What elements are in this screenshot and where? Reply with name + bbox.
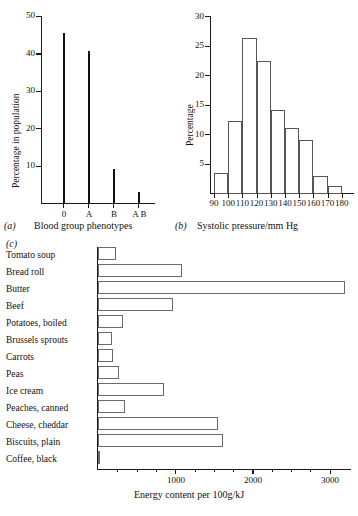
panel-c-x-minor-tick-2250	[272, 469, 273, 472]
panel-b-x-ticklabel-150: 150	[292, 199, 306, 208]
panel-c-x-tick-3000	[330, 469, 331, 474]
panel-c-x-ticklabel-1000: 1000	[163, 476, 189, 485]
chart-panel-c: (c) Tomato soup Bread roll Butter Beef P…	[0, 235, 358, 516]
panel-b-x-ticklabel-130: 130	[264, 199, 278, 208]
panel-c-bar-7	[98, 366, 119, 379]
panel-b-bar-150-160	[299, 140, 313, 194]
panel-b-bar-110-120	[242, 38, 256, 194]
panel-c-bar-11	[98, 434, 223, 447]
panel-b-x-tick-120	[257, 193, 258, 198]
panel-c-bar-1	[98, 264, 182, 277]
panel-c-x-axis	[97, 469, 351, 470]
panel-c-category-label-7: Peas	[6, 369, 23, 379]
panel-a-y-tick-10	[36, 166, 41, 167]
panel-b-y-ticklabel-20: 20	[191, 71, 204, 80]
panel-b-bar-130-140	[271, 110, 285, 194]
chart-panel-b: Percentage 5 10 15 20 25 30 90 100 110 1…	[175, 0, 358, 235]
panel-b-x-ticklabel-100: 100	[221, 199, 235, 208]
panel-c-x-minor-tick-1500	[214, 469, 215, 472]
panel-a-y-tick-40	[36, 53, 41, 54]
panel-b-bar-140-150	[285, 128, 299, 194]
panel-b-x-tick-140	[285, 193, 286, 198]
panel-b-x-tick-180	[342, 193, 343, 198]
panel-b-bar-120-130	[257, 61, 271, 194]
panel-b-x-ticklabel-110: 110	[235, 199, 249, 208]
panel-c-bar-4	[98, 315, 123, 328]
panel-b-y-ticklabel-25: 25	[191, 41, 204, 50]
panel-a-y-tick-20	[36, 128, 41, 129]
panel-a-x-axis-title: Blood group phenotypes	[34, 220, 132, 231]
panel-b-x-ticklabel-120: 120	[250, 199, 264, 208]
panel-a-y-ticklabel-30: 30	[21, 86, 35, 95]
panel-b-x-axis-title: Systolic pressure/mm Hg	[197, 220, 298, 231]
panel-b-letter: (b)	[175, 220, 187, 231]
panel-b-bar-170-180	[328, 186, 342, 194]
panel-b-x-ticklabel-160: 160	[306, 199, 320, 208]
panel-a-x-tick-B	[113, 203, 114, 208]
panel-c-x-tick-2000	[252, 469, 253, 474]
panel-b-y-tick-5	[205, 164, 210, 165]
panel-c-category-label-12: Coffee, black	[6, 454, 57, 464]
panel-c-bar-6	[98, 349, 113, 362]
panel-c-category-label-1: Bread roll	[6, 267, 44, 277]
panel-a-x-ticklabel-0: 0	[58, 210, 70, 219]
chart-panel-a: Percentage in population 10 20 30 40 50 …	[0, 0, 175, 235]
panel-c-bar-5	[98, 332, 112, 345]
panel-c-category-label-6: Carrots	[6, 352, 34, 362]
panel-b-x-ticklabel-180: 180	[335, 199, 349, 208]
panel-a-x-ticklabel-AB: A B	[130, 210, 149, 219]
panel-b-y-tick-10	[205, 134, 210, 135]
panel-c-category-label-9: Peaches, canned	[6, 403, 68, 413]
panel-c-category-label-0: Tomato soup	[6, 250, 55, 260]
panel-c-bar-8	[98, 383, 164, 396]
panel-a-bar-0	[63, 33, 65, 203]
panel-c-category-label-3: Beef	[6, 301, 24, 311]
panel-b-y-ticklabel-15: 15	[191, 100, 204, 109]
panel-c-x-axis-title: Energy content per 100g/kJ	[134, 489, 244, 500]
panel-b-y-tick-20	[205, 75, 210, 76]
panel-b-y-ticklabel-5: 5	[191, 159, 204, 168]
panel-a-y-ticklabel-10: 10	[21, 161, 35, 170]
panel-b-x-tick-90	[214, 193, 215, 198]
panel-a-y-axis	[41, 16, 42, 204]
panel-b-bar-160-170	[313, 176, 327, 194]
panel-b-x-ticklabel-170: 170	[321, 199, 335, 208]
panel-a-y-axis-title: Percentage in population	[11, 94, 21, 188]
panel-a-bar-A	[88, 51, 90, 203]
panel-a-x-ticklabel-A: A	[83, 210, 95, 219]
panel-a-x-tick-AB	[138, 203, 139, 208]
panel-b-x-ticklabel-90: 90	[207, 199, 221, 208]
panel-b-bar-90-100	[214, 173, 228, 194]
panel-c-x-minor-tick-2500	[291, 469, 292, 472]
panel-b-x-ticklabel-140: 140	[278, 199, 292, 208]
panel-c-bar-12	[98, 451, 100, 464]
panel-b-y-axis-title: Percentage	[185, 104, 195, 146]
panel-c-x-ticklabel-3000: 3000	[317, 476, 343, 485]
panel-a-x-tick-0	[63, 203, 64, 208]
panel-b-y-tick-25	[205, 46, 210, 47]
panel-b-y-tick-15	[205, 105, 210, 106]
panel-b-x-tick-170	[328, 193, 329, 198]
panel-b-x-tick-130	[271, 193, 272, 198]
panel-a-x-ticklabel-B: B	[108, 210, 120, 219]
panel-c-letter: (c)	[6, 238, 17, 249]
panel-c-category-label-8: Ice cream	[6, 386, 43, 396]
panel-c-category-label-2: Butter	[6, 284, 30, 294]
panel-a-y-ticklabel-50: 50	[21, 11, 35, 20]
panel-c-category-label-5: Brussels sprouts	[6, 335, 68, 345]
panel-c-bar-2	[98, 281, 345, 294]
panel-b-y-axis	[210, 16, 211, 194]
panel-b-y-ticklabel-10: 10	[191, 130, 204, 139]
panel-b-bar-100-110	[228, 121, 242, 194]
panel-b-y-ticklabel-30: 30	[191, 12, 204, 21]
panel-c-category-label-10: Cheese, cheddar	[6, 420, 68, 430]
panel-c-x-minor-tick-250	[117, 469, 118, 472]
panel-b-x-tick-160	[313, 193, 314, 198]
panel-b-y-tick-30	[205, 16, 210, 17]
panel-b-x-tick-150	[299, 193, 300, 198]
panel-a-y-tick-30	[36, 91, 41, 92]
panel-c-x-minor-tick-500	[137, 469, 138, 472]
panel-a-y-ticklabel-20: 20	[21, 124, 35, 133]
panel-c-x-ticklabel-2000: 2000	[240, 476, 266, 485]
panel-a-x-tick-A	[88, 203, 89, 208]
